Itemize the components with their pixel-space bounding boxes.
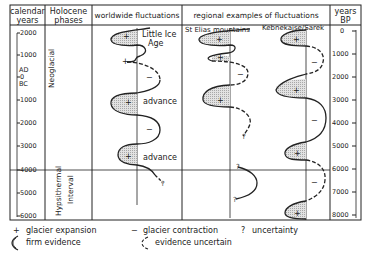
- header-regional: regional examples of fluctuations: [182, 11, 330, 20]
- question-marker: ?: [236, 163, 240, 172]
- st-elias-curve: [199, 29, 257, 199]
- question-marker: ?: [161, 180, 165, 189]
- cal-tick-6000bc: 6000: [20, 212, 37, 221]
- plus-marker: +: [123, 32, 130, 41]
- label-little-ice-age-2: Age: [148, 39, 163, 48]
- glacier-fluctuation-diagram: [0, 0, 371, 261]
- header-line: Holocene: [45, 7, 92, 16]
- plus-marker: +: [217, 53, 224, 62]
- header-holocene-phases: Holocene phases: [45, 7, 92, 25]
- header-worldwide: worldwide fluctuations: [92, 11, 182, 20]
- cal-tick-3000bc: 3000: [20, 142, 37, 151]
- question-marker: ?: [242, 133, 246, 142]
- legend-contraction-label: glacier contraction: [143, 226, 218, 235]
- legend-uncertainty-symbol: ?: [241, 226, 245, 235]
- subheader-st-elias: St Elias mountains: [185, 26, 250, 35]
- plus-marker: +: [294, 209, 301, 218]
- bp-tick-5000: 5000: [332, 142, 349, 151]
- plus-marker: +: [293, 35, 300, 44]
- legend-firm-evidence-label: firm evidence: [26, 238, 81, 247]
- evidence-uncertain-icon: [142, 237, 148, 249]
- header-line: BP: [330, 16, 361, 25]
- plus-marker: +: [294, 149, 301, 158]
- label-advance-1: advance: [143, 97, 177, 106]
- minus-marker: −: [237, 70, 244, 79]
- plus-marker: +: [217, 96, 224, 105]
- minus-marker: −: [311, 58, 318, 67]
- minus-marker: −: [311, 116, 318, 125]
- plus-marker: +: [293, 86, 300, 95]
- cal-tick-5000bc: 5000: [20, 189, 37, 198]
- header-years-bp: years BP: [330, 7, 361, 25]
- bp-tick-3000: 3000: [332, 96, 349, 105]
- plus-marker: +: [216, 35, 223, 44]
- header-line: years: [10, 16, 45, 25]
- legend-evidence-uncertain-label: evidence uncertain: [155, 238, 232, 247]
- label-advance-2: advance: [143, 153, 177, 162]
- bp-tick-2000: 2000: [332, 73, 349, 82]
- legend-expansion-label: glacier expansion: [26, 226, 97, 235]
- bp-axis: [352, 30, 356, 218]
- phase-hypsithermal: Hypsithermal: [54, 166, 63, 216]
- bp-tick-1000: 1000: [332, 50, 349, 59]
- subheader-kebnekajse: Kebnekajse/Sarek: [262, 24, 324, 33]
- bp-tick-6000: 6000: [332, 165, 349, 174]
- question-marker: ?: [233, 196, 237, 205]
- kebnekajse-curve: [276, 30, 326, 219]
- cal-tick-2000bc: 2000: [20, 119, 37, 128]
- cal-tick-2000ad: 2000: [20, 29, 37, 38]
- header-line: years: [330, 7, 361, 16]
- header-line: phases: [45, 16, 92, 25]
- header-line: calendar: [10, 7, 45, 16]
- phase-neoglacial: Neoglacial: [47, 49, 56, 88]
- bp-tick-7000: 7000: [332, 188, 349, 197]
- plus-marker: +: [125, 152, 132, 161]
- bp-tick-4000: 4000: [332, 119, 349, 128]
- plus-marker: +: [125, 98, 132, 107]
- cal-tick-4000bc: 4000: [20, 166, 37, 175]
- header-calendar-years: calendar years: [10, 7, 45, 25]
- bp-tick-0: 0: [340, 27, 344, 36]
- minus-marker: −: [311, 178, 318, 187]
- legend-expansion-symbol: +: [13, 226, 20, 235]
- plus-marker: +: [122, 57, 129, 66]
- label-little-ice-age-1: Little Ice: [142, 30, 176, 39]
- cal-tick-bc: BC: [19, 81, 28, 88]
- minus-marker: −: [146, 125, 153, 134]
- legend-contraction-symbol: −: [131, 226, 138, 235]
- minus-marker: −: [146, 73, 153, 82]
- cal-tick-1000bc: 1000: [20, 96, 37, 105]
- cal-tick-1000ad: 1000: [20, 51, 37, 60]
- bp-tick-8000: 8000: [332, 211, 349, 220]
- legend-uncertainty-label: uncertainty: [252, 226, 298, 235]
- phase-interval: Interval: [66, 175, 75, 204]
